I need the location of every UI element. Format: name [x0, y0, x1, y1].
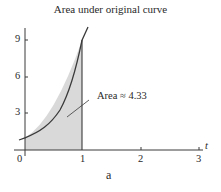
x-tick-2: 2 [138, 153, 143, 164]
x-tick-1: 1 [80, 153, 85, 164]
x-axis-label: t [205, 140, 208, 151]
area-annotation: Area ≈ 4.33 [97, 90, 147, 101]
x-tick-3: 3 [196, 153, 201, 164]
x-tick-0: 0 [17, 153, 22, 164]
figure-caption: a [106, 168, 111, 183]
y-tick-9: 9 [15, 33, 20, 44]
y-tick-6: 6 [15, 70, 20, 81]
y-tick-3: 3 [15, 106, 20, 117]
